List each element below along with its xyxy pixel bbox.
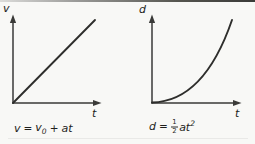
velocity-x-axis-label: t <box>92 107 97 118</box>
velocity-equation: v = v0 + at <box>14 121 73 136</box>
velocity-equation-lhs: v <box>14 122 21 135</box>
velocity-time-graph: v t <box>0 0 110 118</box>
one-half-fraction: 1 2 <box>171 119 178 136</box>
velocity-y-axis-arrow-icon <box>10 15 16 24</box>
distance-x-axis-arrow-icon <box>233 100 242 106</box>
page: { "page": { "background_color": "#f8f8f6… <box>0 0 255 144</box>
distance-time-graph: d t <box>135 0 255 118</box>
distance-equation-exponent: 2 <box>190 119 195 128</box>
plus-sign: + <box>50 122 59 134</box>
distance-curve <box>152 20 232 103</box>
distance-equation-lhs: d <box>149 120 156 133</box>
distance-equation-at-squared: at2 <box>179 120 195 134</box>
bottom-edge-faint-line <box>8 138 248 139</box>
velocity-y-axis-label: v <box>3 2 10 15</box>
equals-sign: = <box>24 122 33 134</box>
fraction-denominator: 2 <box>172 127 176 135</box>
velocity-x-axis-arrow-icon <box>93 100 102 106</box>
distance-y-axis-label: d <box>139 3 147 16</box>
equals-sign: = <box>159 120 168 132</box>
velocity-equation-at: at <box>61 122 72 135</box>
distance-y-axis-arrow-icon <box>149 15 155 24</box>
distance-x-axis-label: t <box>235 107 240 118</box>
velocity-equation-v0: v0 <box>35 121 46 136</box>
velocity-line <box>13 20 95 103</box>
distance-equation: d = 1 2 at2 <box>149 118 195 135</box>
velocity-equation-v0-subscript: 0 <box>42 127 47 136</box>
